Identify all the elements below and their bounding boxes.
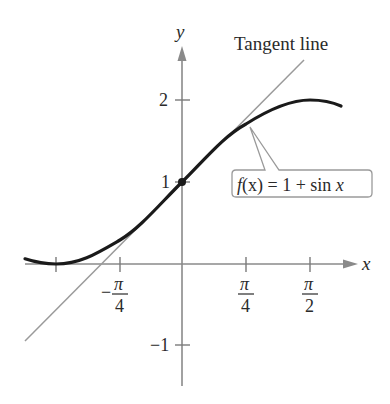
y-axis-arrow-icon: [178, 46, 187, 61]
svg-text:4: 4: [115, 296, 124, 316]
tangent-line-label: Tangent line: [234, 33, 328, 54]
svg-text:4: 4: [241, 296, 250, 316]
x-axis-label: x: [361, 253, 371, 274]
y-axis: y: [174, 21, 187, 386]
x-tick-label-pi-4: π 4: [238, 274, 254, 316]
svg-text:π: π: [240, 274, 250, 294]
x-axis-arrow-icon: [343, 260, 358, 269]
function-label-callout: f(x) = 1 + sin x: [232, 127, 372, 197]
x-tick-label-neg-pi-4: − π 4: [101, 274, 128, 316]
x-axis: x: [25, 253, 371, 274]
function-label: f(x) = 1 + sin x: [237, 175, 344, 196]
y-tick-label-2: 2: [159, 90, 168, 110]
svg-text:π: π: [304, 274, 314, 294]
y-tick-label-1: 1: [161, 172, 170, 192]
svg-text:2: 2: [305, 296, 314, 316]
svg-text:−: −: [101, 282, 111, 302]
function-tangent-chart: x y − π 4 π 4 π 2 2 1 −1: [0, 0, 390, 404]
tangency-point: [178, 178, 186, 186]
y-axis-label: y: [174, 21, 185, 42]
y-tick-label-neg-1: −1: [150, 335, 169, 355]
x-tick-label-pi-2: π 2: [302, 274, 318, 316]
svg-text:π: π: [114, 274, 124, 294]
